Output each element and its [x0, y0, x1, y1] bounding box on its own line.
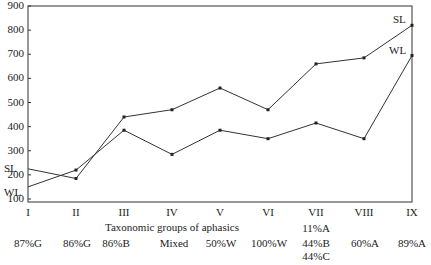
group-iii-composition: 86%B [91, 237, 141, 249]
x-tick-label: III [109, 206, 139, 218]
y-tick-label: 800 [0, 24, 24, 35]
group-vii-composition-a: 11%A [291, 222, 341, 234]
x-tick-label: V [205, 206, 235, 218]
y-tick-label: 400 [0, 121, 24, 132]
sl-left-label: SL [4, 162, 17, 174]
wl-series-line [28, 56, 412, 187]
data-point-markers [75, 24, 414, 180]
group-i-composition: 87%G [3, 237, 53, 249]
y-tick-label: 300 [0, 145, 24, 156]
x-tick-label: I [13, 206, 43, 218]
wl-left-label: WL [4, 186, 21, 198]
x-tick-label: II [61, 206, 91, 218]
group-ix-composition: 89%A [387, 237, 431, 249]
group-vii-composition-b: 44%B [291, 237, 341, 249]
x-tick-label: IV [157, 206, 187, 218]
y-tick-label: 600 [0, 72, 24, 83]
y-tick-label: 700 [0, 48, 24, 59]
y-tick-label: 500 [0, 97, 24, 108]
group-iv-composition: Mixed [149, 237, 199, 249]
x-axis-title: Taxonomic groups of aphasics [105, 221, 239, 233]
x-tick-label: VIII [349, 206, 379, 218]
plot-frame [28, 6, 412, 202]
sl-right-label: SL [393, 13, 406, 25]
group-viii-composition: 60%A [340, 237, 390, 249]
x-tick-label: IX [397, 206, 427, 218]
wl-right-label: WL [389, 44, 406, 56]
x-tick-label: VII [301, 206, 331, 218]
x-tick-label: VI [253, 206, 283, 218]
y-tick-label: 900 [0, 0, 24, 11]
sl-series-line [28, 25, 412, 178]
group-v-composition: 50%W [196, 237, 246, 249]
group-vi-composition: 100%W [244, 237, 294, 249]
group-vii-composition-c: 44%C [291, 250, 341, 262]
